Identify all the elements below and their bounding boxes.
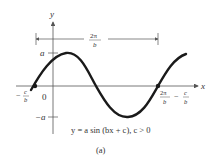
phase-minus-sign: − (16, 91, 21, 100)
sine-graph: y x 0 a −a 2π b − c b 2π b − c b y = a s… (0, 0, 218, 164)
figure-caption: (a) (96, 145, 106, 155)
period-numerator: 2π (90, 32, 98, 40)
phase-denominator: b (24, 96, 28, 103)
end-minus-sign: − (174, 92, 179, 101)
origin-label: 0 (42, 92, 47, 102)
sine-curve (31, 53, 186, 117)
end-denominator-1: b (163, 98, 167, 105)
phase-numerator: c (24, 88, 27, 95)
end-numerator-2: c (184, 89, 187, 96)
y-axis-label: y (49, 9, 54, 19)
period-denominator: b (93, 41, 97, 49)
equation-label: y = a sin (bx + c), c > 0 (71, 125, 151, 135)
phase-start-point (33, 84, 37, 88)
x-axis-label: x (200, 81, 205, 91)
period-end-point (156, 84, 160, 88)
amplitude-a-label: a (40, 48, 45, 58)
end-numerator-1: 2π (160, 89, 167, 96)
end-denominator-2: b (184, 98, 188, 105)
amplitude-neg-a-label: −a (35, 112, 46, 122)
